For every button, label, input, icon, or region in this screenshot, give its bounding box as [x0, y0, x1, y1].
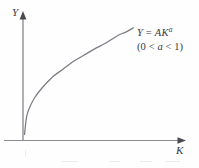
- equation-equals-sign: =: [143, 27, 155, 38]
- x-axis-label: K: [176, 145, 183, 156]
- x-axis-arrowhead: [178, 137, 187, 143]
- equation-line: Y = AKa: [137, 26, 183, 40]
- range-close: < 1): [163, 41, 183, 52]
- production-function-curve: [25, 28, 134, 135]
- y-axis-label: Y: [12, 7, 18, 18]
- parameter-range-line: (0 < a < 1): [137, 40, 183, 54]
- equation-annotation: Y = AKa (0 < a < 1): [137, 26, 183, 54]
- equation-body: AK: [155, 27, 169, 38]
- y-axis-arrowhead: [20, 11, 27, 20]
- production-function-figure: Y K Y = AKa (0 < a < 1): [0, 0, 199, 168]
- equation-exponent: a: [169, 25, 173, 34]
- range-open: (0 <: [137, 41, 157, 52]
